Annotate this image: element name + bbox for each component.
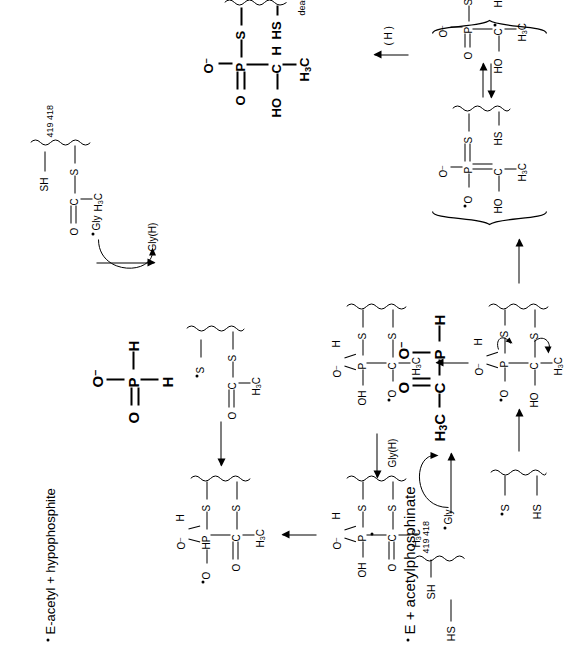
label-gly-radical: Gly [90,215,101,235]
atom-carbonyl-O: O [230,563,241,571]
group-HO: HO [492,198,503,213]
enzyme-tether-icon [346,299,406,313]
atom-HS: HS [444,626,456,641]
group-SH: SH [38,177,49,191]
atom-S-lower: S [386,332,397,339]
reaction-arrow-a5 [436,362,468,363]
residue-numbers: 419 418 [44,104,54,137]
reaction-arrow-a2 [518,239,519,283]
enzyme-tether-icon [452,101,510,115]
atom-C: C [492,23,503,35]
atom-P-O-minus: O– [330,537,342,549]
atom-P-O-minus: O– [174,537,186,549]
atom-HP: HP [200,535,211,549]
atom-S: S [232,30,247,39]
atom-P-H: H [330,512,341,519]
atom-carbonyl-O: O [68,227,79,235]
enzyme-tether-icon [30,135,90,149]
atom-C: C [492,168,503,175]
group-methyl: H3C [410,529,423,547]
group-methyl: H3C [254,529,267,547]
radical-dot-icon [91,232,94,235]
atom-P-O-minus: O– [88,369,106,387]
atom-S-lower: S [386,504,397,511]
enzyme-tether-icon [224,0,288,9]
radical-dot-icon [443,526,446,529]
reaction-arrow-a7 [282,534,316,535]
reaction-arrow-a1 [518,409,519,451]
atom-HS: HS [530,504,542,519]
label-dead-end-product: dead-end product [296,0,306,15]
atom-carbonyl-O: O [462,51,473,59]
label-h-transfer: ( H ) [382,26,393,45]
atom-S-upper: S [356,504,367,511]
atom-P-O-minus: O– [394,341,412,359]
atom-alkoxyl-O: O [462,195,473,207]
atom-P: P [124,377,141,387]
atom-P-O-minus: O– [330,365,342,377]
group-HO: HO [268,98,283,118]
atom-carbonyl-O: O [232,95,247,105]
atom-C: C [268,64,283,73]
atom-C: C [226,382,237,389]
group-methyl: H3C [516,163,529,181]
atom-S: S [68,168,79,175]
atom-P: P [356,534,367,541]
atom-S-upper: S [200,504,211,511]
label-gly-h: Gly(H) [386,438,397,467]
atom-C: C [386,534,397,541]
brace-left-icon [430,209,548,227]
group-OH: OH [356,562,367,577]
enzyme-tether-icon [490,465,546,479]
atom-P-O-minus: O– [436,25,448,37]
atom-P-O-minus: O– [472,363,484,375]
label-gly-radical: Gly [442,509,453,529]
enzyme-tether-icon [186,321,244,335]
atom-P-O-minus: O– [436,165,448,177]
radical-dot-icon [195,374,198,377]
atom-P-O-minus: O– [200,58,215,73]
electron-pushing-arrow-icon [492,323,518,363]
group-OH: OH [356,390,367,405]
label-gly-h: Gly(H) [146,222,157,251]
group-HO: HO [492,58,503,73]
atom-SH: SH [424,584,436,599]
group-methyl: H3C [430,413,449,441]
radical-dot-icon [46,638,49,641]
atom-alkoxyl-O: O [386,389,397,401]
atom-carbonyl-O: O [124,411,141,423]
group-HS: HS [492,131,503,145]
electron-pushing-arrow-icon [530,329,556,363]
reaction-arrow-a4 [374,54,408,55]
atom-carbonyl-O: O [226,411,237,419]
atom-P-H: H [430,314,447,325]
group-methyl: H3C [92,193,105,211]
reaction-arrow-a8 [220,421,221,465]
group-HS: HS [268,21,283,39]
atom-C-H: H [268,46,283,55]
atom-alkoxyl-O: O [498,389,509,401]
atom-P: P [462,26,473,33]
atom-P: P [462,166,473,173]
atom-P-H: H [472,338,483,345]
atom-S-upper: S [356,332,367,339]
radical-dot-icon [499,398,502,401]
atom-C: C [230,534,241,541]
atom-carbonyl-C: C [430,382,447,393]
radical-dot-icon [387,398,390,401]
group-methyl: H3C [516,23,529,41]
atom-S-lower: S [230,504,241,511]
atom-P: P [430,349,447,359]
group-methyl: H3C [410,357,423,375]
entry-label-top: E-acetyl + hypophosphite [42,488,57,641]
atom-P: P [232,62,247,71]
reaction-arrow-a6 [376,433,377,477]
radical-dot-icon [201,580,204,583]
radical-dot-icon [493,23,496,26]
group-methyl: H3C [296,57,312,81]
curved-arrow-icon [404,447,454,513]
atom-thiyl-S: S [194,366,205,377]
atom-thiyl-S: S [498,504,510,515]
